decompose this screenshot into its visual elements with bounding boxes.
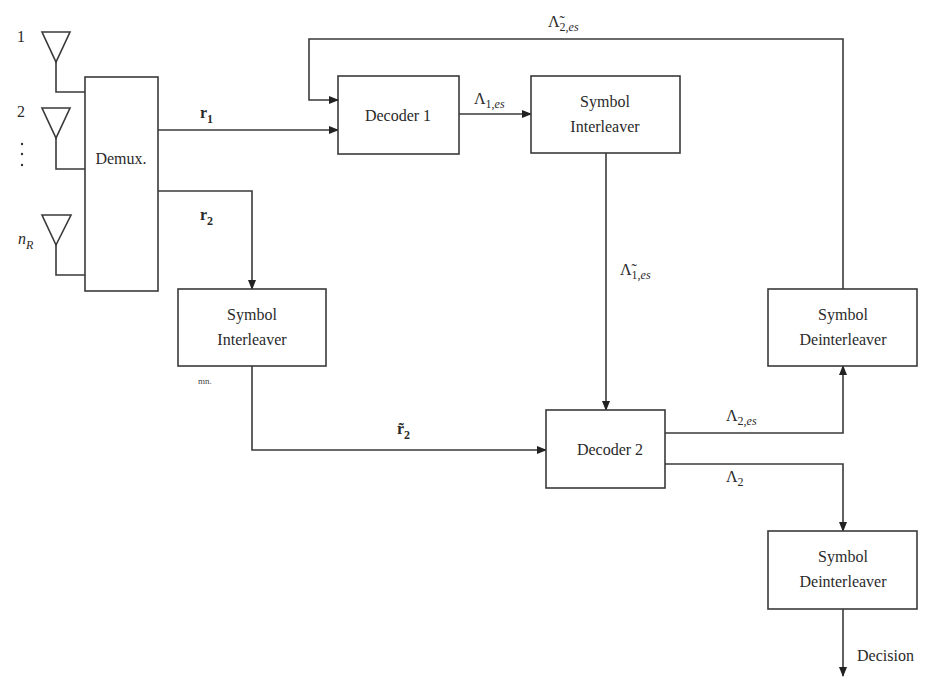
- interleaver-top-line1: Symbol: [580, 93, 630, 111]
- antenna-icon: [42, 215, 71, 245]
- symbol-interleaver-left-block: Symbol Interleaver: [178, 289, 326, 366]
- interleaver-top-line2: Interleaver: [570, 118, 640, 135]
- r2-label: r2: [200, 206, 213, 228]
- antenna-icon: [42, 32, 70, 62]
- r1-label: r1: [200, 104, 213, 126]
- antenna-nR-label: nR: [18, 230, 34, 252]
- antenna-ellipsis: [21, 143, 23, 166]
- lambda-2-label: Λ2: [726, 468, 744, 489]
- lambda-2-connection: [665, 464, 843, 531]
- lambda-2-es-label: Λ2,es: [726, 407, 757, 428]
- symbol-interleaver-top-block: Symbol Interleaver: [531, 76, 680, 153]
- deinterleaver-lower-line2: Deinterleaver: [799, 573, 887, 590]
- decoder-2-block: Decoder 2: [546, 410, 665, 488]
- deinterleaver-upper-line2: Deinterleaver: [799, 331, 887, 348]
- antenna-2-wire: [56, 138, 85, 169]
- antenna-nR-wire: [56, 245, 85, 275]
- antenna-2-label: 2: [17, 103, 25, 120]
- symbol-deinterleaver-lower-block: Symbol Deinterleaver: [768, 531, 917, 609]
- decoder-1-block: Decoder 1: [338, 76, 459, 154]
- decision-label: Decision: [857, 647, 914, 664]
- antenna-1-wire: [56, 62, 85, 92]
- antenna-2: 2: [17, 103, 85, 169]
- decoder-2-label: Decoder 2: [577, 441, 643, 458]
- antenna-icon: [42, 108, 70, 138]
- r2-tilde-label: r̃2: [397, 420, 410, 442]
- turbo-decoder-block-diagram: 1 2 nR Demux. r1 r2 Decoder 1 Λ1,es Symb…: [0, 0, 934, 688]
- demux-block: Demux.: [85, 77, 158, 291]
- decoder-1-label: Decoder 1: [365, 107, 431, 124]
- antenna-nR: nR: [18, 215, 85, 275]
- interleaver-left-line1: Symbol: [227, 306, 277, 324]
- deinterleaver-lower-line1: Symbol: [818, 548, 868, 566]
- lambda-1-es-tilde-label: Λ̃1,es: [620, 261, 651, 282]
- antenna-1: 1: [17, 28, 85, 92]
- mn-annotation: mn.: [198, 376, 212, 386]
- lambda-1-es-label: Λ1,es: [474, 90, 505, 111]
- r2-tilde-connection: [252, 366, 546, 450]
- demux-label: Demux.: [95, 150, 146, 167]
- deinterleaver-upper-line1: Symbol: [818, 306, 868, 324]
- lambda-2-es-tilde-label: Λ̃2,es: [548, 13, 579, 34]
- antenna-1-label: 1: [17, 28, 25, 45]
- symbol-deinterleaver-upper-block: Symbol Deinterleaver: [768, 289, 917, 366]
- interleaver-left-line2: Interleaver: [217, 331, 287, 348]
